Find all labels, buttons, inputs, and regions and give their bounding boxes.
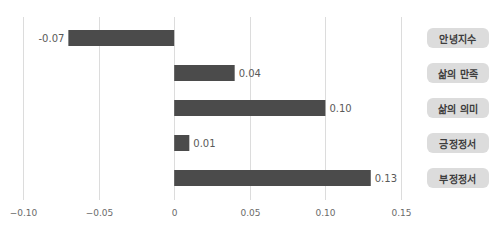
x-axis-ticks: −0.10−0.0500.050.100.15 bbox=[10, 208, 412, 218]
bar bbox=[174, 65, 234, 81]
bar bbox=[174, 135, 189, 151]
bar bbox=[174, 100, 325, 116]
category-label: 긍정정서 bbox=[427, 133, 489, 153]
category-label: 안녕지수 bbox=[427, 28, 489, 48]
value-label: 0.10 bbox=[329, 103, 351, 114]
value-label: 0.04 bbox=[239, 68, 261, 79]
value-label: -0.07 bbox=[38, 33, 64, 44]
x-tick-label: −0.10 bbox=[10, 208, 38, 218]
bar bbox=[174, 170, 371, 186]
category-label: 삶의 의미 bbox=[427, 98, 489, 118]
bar bbox=[68, 30, 174, 46]
bar-chart: -0.070.040.100.010.13 −0.10−0.0500.050.1… bbox=[0, 0, 498, 227]
category-label: 삶의 만족 bbox=[427, 63, 489, 83]
x-tick-label: 0.05 bbox=[240, 208, 260, 218]
value-label: 0.01 bbox=[193, 138, 215, 149]
x-tick-label: 0.15 bbox=[391, 208, 411, 218]
category-label: 부정정서 bbox=[427, 168, 489, 188]
value-label: 0.13 bbox=[375, 173, 397, 184]
x-tick-label: 0 bbox=[172, 208, 178, 218]
x-tick-label: 0.10 bbox=[315, 208, 335, 218]
x-tick-label: −0.05 bbox=[86, 208, 114, 218]
